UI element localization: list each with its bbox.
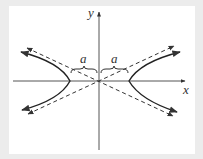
hyperbola-figure [0,0,203,159]
label-a-left: a [80,52,87,65]
asymptote-positive-slope [28,46,174,114]
hyperbola-right-branch [129,52,180,112]
label-a-right: a [111,52,118,65]
asymptote-negative-slope [27,48,173,116]
brace-right-a [101,66,128,73]
brace-left-a [71,66,97,73]
x-axis-label: x [183,83,189,96]
y-axis-label: y [88,6,94,19]
